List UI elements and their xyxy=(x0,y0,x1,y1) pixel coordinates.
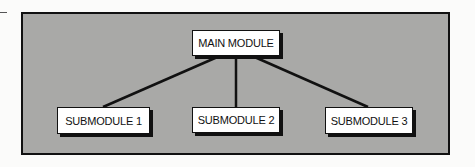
submodule-1-box: SUBMODULE 1 xyxy=(57,107,150,134)
main-module-box: MAIN MODULE xyxy=(192,30,280,56)
connector-main-to-sub3 xyxy=(250,55,368,107)
submodule-3-label: SUBMODULE 3 xyxy=(331,115,408,127)
connector-lines xyxy=(0,0,475,167)
main-module-label: MAIN MODULE xyxy=(198,37,273,49)
submodule-2-box: SUBMODULE 2 xyxy=(192,107,280,133)
submodule-3-box: SUBMODULE 3 xyxy=(325,107,413,134)
submodule-1-label: SUBMODULE 1 xyxy=(65,115,142,127)
submodule-2-label: SUBMODULE 2 xyxy=(198,114,275,126)
connector-main-to-sub1 xyxy=(103,55,222,107)
